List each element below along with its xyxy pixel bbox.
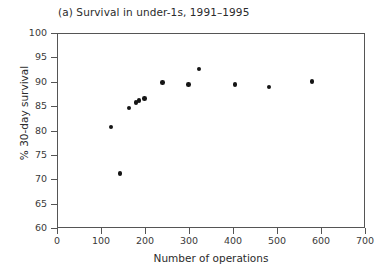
x-axis-label: Number of operations <box>57 252 365 264</box>
data-point <box>186 82 191 87</box>
x-tick-label: 0 <box>37 235 77 246</box>
data-point <box>160 80 165 85</box>
y-tick-mark <box>51 131 57 132</box>
data-point <box>233 82 238 87</box>
data-point <box>310 79 315 84</box>
x-tick-label: 700 <box>345 235 385 246</box>
data-point <box>137 98 142 103</box>
x-tick-mark <box>145 228 146 234</box>
x-tick-mark <box>189 228 190 234</box>
data-point <box>142 96 147 101</box>
y-tick-label: 60 <box>7 222 47 233</box>
x-tick-mark <box>101 228 102 234</box>
y-tick-mark <box>51 106 57 107</box>
y-tick-mark <box>51 82 57 83</box>
x-tick-mark <box>277 228 278 234</box>
data-point <box>267 85 272 90</box>
data-point <box>127 106 132 111</box>
chart-title: (a) Survival in under-1s, 1991–1995 <box>58 6 249 18</box>
y-tick-mark <box>51 33 57 34</box>
x-tick-label: 100 <box>81 235 121 246</box>
x-tick-mark <box>365 228 366 234</box>
plot-area <box>57 33 365 228</box>
x-tick-mark <box>57 228 58 234</box>
x-tick-mark <box>233 228 234 234</box>
y-axis-label: % 30-day survival <box>18 23 30 203</box>
x-tick-label: 500 <box>257 235 297 246</box>
data-point <box>109 125 114 130</box>
data-points-layer <box>58 34 364 227</box>
y-tick-mark <box>51 204 57 205</box>
y-tick-mark <box>51 57 57 58</box>
x-tick-label: 200 <box>125 235 165 246</box>
y-tick-mark <box>51 179 57 180</box>
x-tick-label: 300 <box>169 235 209 246</box>
data-point <box>197 67 202 72</box>
data-point <box>118 171 123 176</box>
x-tick-label: 400 <box>213 235 253 246</box>
x-tick-label: 600 <box>301 235 341 246</box>
scatter-chart-figure: (a) Survival in under-1s, 1991–1995 6065… <box>0 0 387 279</box>
y-tick-mark <box>51 155 57 156</box>
x-tick-mark <box>321 228 322 234</box>
